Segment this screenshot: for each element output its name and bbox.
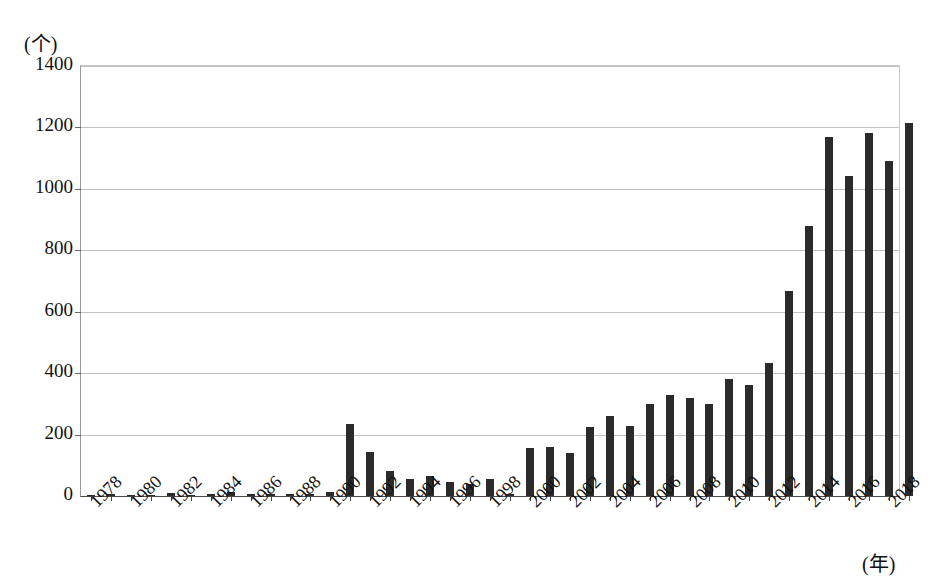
bar xyxy=(646,404,654,496)
y-axis-tick-label: 1200 xyxy=(11,114,73,136)
bar xyxy=(606,416,614,496)
bar xyxy=(885,161,893,496)
y-axis-tick-label: 600 xyxy=(11,299,73,321)
bar xyxy=(865,133,873,496)
bar xyxy=(825,137,833,496)
y-axis-tick-label: 800 xyxy=(11,237,73,259)
bar xyxy=(725,379,733,496)
bars-group xyxy=(81,66,899,496)
bar xyxy=(765,363,773,496)
y-axis-tick-label: 200 xyxy=(11,422,73,444)
bar xyxy=(845,176,853,496)
y-axis-tick-label: 1000 xyxy=(11,176,73,198)
bar xyxy=(805,226,813,496)
y-axis-tick-label: 1400 xyxy=(11,53,73,75)
bar xyxy=(905,123,913,496)
x-axis-unit-label: (年) xyxy=(862,548,895,577)
y-axis-tick-label: 0 xyxy=(11,483,73,505)
bar xyxy=(785,291,793,496)
plot-area: 0200400600800100012001400 xyxy=(80,65,900,497)
chart-figure: (个) 0200400600800100012001400 1978198019… xyxy=(0,0,941,588)
x-axis-labels-group: 1978198019821984198619881990199219941996… xyxy=(80,497,898,557)
bar xyxy=(686,398,694,496)
y-axis-tick-label: 400 xyxy=(11,360,73,382)
